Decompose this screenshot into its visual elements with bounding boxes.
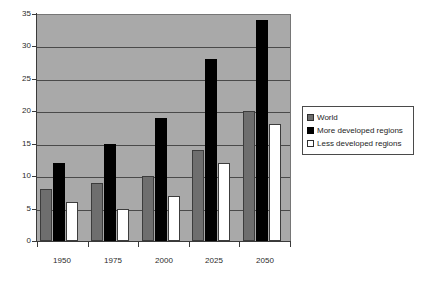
legend-item-label: Less developed regions (317, 139, 402, 148)
legend-swatch-icon (307, 114, 314, 121)
bar (256, 20, 268, 241)
bar (218, 163, 230, 241)
bar (243, 111, 255, 241)
x-tick-label: 2025 (189, 256, 239, 265)
bar (155, 118, 167, 241)
x-tick-mark (239, 242, 240, 247)
y-tick-label: 5 (3, 205, 31, 213)
legend-item[interactable]: World (307, 111, 410, 124)
x-axis-line (36, 241, 291, 242)
bar (142, 176, 154, 241)
bar (66, 202, 78, 241)
legend-item-label: World (317, 113, 338, 122)
bar (205, 59, 217, 241)
chart-legend: WorldMore developed regionsLess develope… (302, 106, 414, 155)
legend-item[interactable]: More developed regions (307, 124, 410, 137)
x-tick-label: 1975 (88, 256, 138, 265)
bar (117, 209, 129, 241)
legend-swatch-icon (307, 140, 314, 147)
y-tick-label: 15 (3, 140, 31, 148)
y-tick-label: 20 (3, 107, 31, 115)
legend-item-label: More developed regions (317, 126, 403, 135)
x-tick-mark (88, 242, 89, 247)
bar (53, 163, 65, 241)
gridline (37, 80, 290, 81)
gridline (37, 47, 290, 48)
y-axis-line (36, 13, 37, 242)
y-axis-tick-labels: 05101520253035 (0, 0, 31, 283)
bar (40, 189, 52, 241)
x-tick-label: 2050 (240, 256, 290, 265)
y-tick-label: 25 (3, 75, 31, 83)
y-tick-label: 10 (3, 172, 31, 180)
x-tick-mark (37, 242, 38, 247)
legend-swatch-icon (307, 127, 314, 134)
bar (91, 183, 103, 241)
x-tick-mark (290, 242, 291, 247)
x-tick-label: 1950 (37, 256, 87, 265)
legend-item[interactable]: Less developed regions (307, 137, 410, 150)
bar (168, 196, 180, 241)
x-tick-mark (138, 242, 139, 247)
x-tick-mark (189, 242, 190, 247)
y-tick-label: 0 (3, 237, 31, 245)
y-tick-label: 35 (3, 10, 31, 18)
bar (192, 150, 204, 241)
bar (269, 124, 281, 241)
y-tick-label: 30 (3, 42, 31, 50)
bar (104, 144, 116, 241)
bar-chart: 05101520253035 19501975200020252050 Worl… (0, 0, 424, 283)
x-tick-label: 2000 (139, 256, 189, 265)
